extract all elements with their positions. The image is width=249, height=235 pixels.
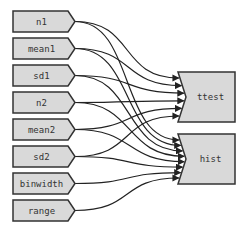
input-node-label: mean2 [28,125,55,135]
output-node-label: ttest [197,92,224,102]
edge-sd2-to-hist [75,157,182,168]
output-node-hist[interactable]: hist [178,134,235,184]
input-node-mean2[interactable]: mean2 [13,119,75,140]
input-node-label: range [28,206,55,216]
edge-binwidth-to-hist [75,173,181,184]
input-node-range[interactable]: range [13,200,75,221]
input-nodes-group: n1mean1sd1n2mean2sd2binwidthrange [13,11,75,221]
input-node-n2[interactable]: n2 [13,92,75,113]
input-node-label: n2 [36,98,47,108]
input-node-label: sd2 [33,152,49,162]
input-node-label: n1 [36,17,47,27]
input-node-binwidth[interactable]: binwidth [13,173,75,194]
input-node-n1[interactable]: n1 [13,11,75,32]
edge-mean1-to-ttest [75,49,181,86]
dependency-graph: n1mean1sd1n2mean2sd2binwidthrange ttesth… [0,0,249,235]
output-node-ttest[interactable]: ttest [178,72,235,122]
edges-group [75,22,184,211]
input-node-sd2[interactable]: sd2 [13,146,75,167]
output-nodes-group: ttesthist [178,72,235,184]
output-node-label: hist [200,154,222,164]
input-node-mean1[interactable]: mean1 [13,38,75,59]
edge-n1-to-hist [75,22,179,141]
input-node-label: sd1 [33,71,49,81]
input-node-sd1[interactable]: sd1 [13,65,75,86]
input-node-label: mean1 [28,44,55,54]
edge-n2-to-ttest [75,101,184,103]
input-node-label: binwidth [20,179,63,189]
